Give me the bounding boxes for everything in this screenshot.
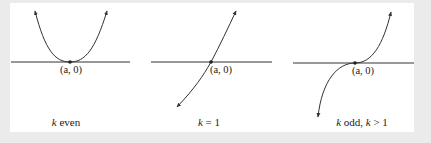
curve-even — [35, 11, 107, 62]
point-label-text: (a, 0) — [352, 65, 374, 76]
point-label-k-odd: (a, 0) — [352, 65, 374, 76]
caption-text: > 1 — [371, 116, 388, 128]
point-label-k-even: (a, 0) — [60, 64, 82, 75]
caption-text: = 1 — [203, 116, 220, 128]
point-label-k-one: (a, 0) — [210, 64, 232, 75]
point-label-text: (a, 0) — [60, 64, 82, 75]
caption-text: odd, — [341, 116, 366, 128]
caption-k-one: k = 1 — [198, 116, 220, 128]
caption-k-even: k even — [52, 116, 80, 128]
point-label-text: (a, 0) — [210, 64, 232, 75]
graph-k-even — [11, 11, 130, 64]
caption-text: even — [57, 116, 81, 128]
curve-k-one — [177, 11, 236, 107]
caption-k-odd: k odd, k > 1 — [336, 116, 388, 128]
graph-k-one — [151, 11, 272, 107]
